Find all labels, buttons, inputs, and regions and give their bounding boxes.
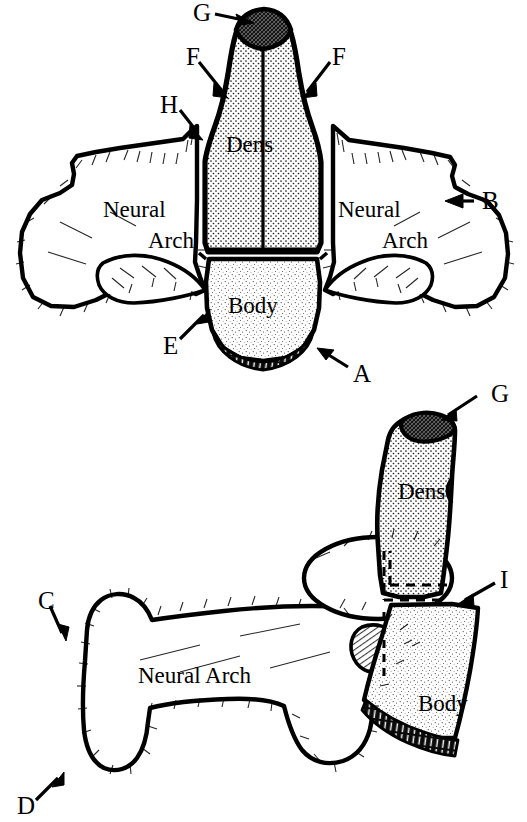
label-left-neural-arch-line1: Neural	[103, 198, 166, 221]
label-right-neural-arch-line2: Arch	[382, 229, 428, 252]
label-letter-h: H	[160, 92, 178, 117]
label-dens-superior: Dens	[226, 133, 273, 156]
dens-shape-lateral	[377, 413, 455, 597]
label-neural-arch-lateral: Neural Arch	[138, 664, 251, 687]
label-letter-b: B	[482, 188, 499, 213]
arrow-f-right	[302, 62, 330, 98]
label-letter-f-right: F	[332, 44, 346, 69]
arrow-g-lateral	[441, 396, 477, 421]
label-right-neural-arch-line1: Neural	[338, 198, 401, 221]
label-letter-e: E	[163, 333, 178, 358]
arrow-a	[317, 348, 348, 367]
label-body-superior: Body	[228, 294, 278, 317]
label-letter-g-lateral: G	[491, 381, 509, 406]
label-letter-g-top: G	[193, 0, 211, 25]
label-letter-i: I	[500, 567, 508, 592]
label-left-neural-arch-line2: Arch	[148, 229, 194, 252]
anatomical-figure: G F F H B E A Dens Neural Arch Neural Ar…	[0, 0, 527, 822]
label-letter-a: A	[353, 361, 371, 386]
arrow-e	[180, 309, 210, 339]
label-body-lateral: Body	[418, 692, 468, 715]
lateral-view-group	[36, 396, 495, 800]
label-letter-d: D	[17, 793, 35, 818]
label-letter-f-left: F	[186, 44, 200, 69]
label-letter-c: C	[38, 588, 55, 613]
arrow-d	[36, 772, 64, 800]
label-dens-lateral: Dens	[398, 480, 445, 503]
dens-shape-superior	[205, 9, 321, 252]
arrow-i	[458, 583, 495, 606]
